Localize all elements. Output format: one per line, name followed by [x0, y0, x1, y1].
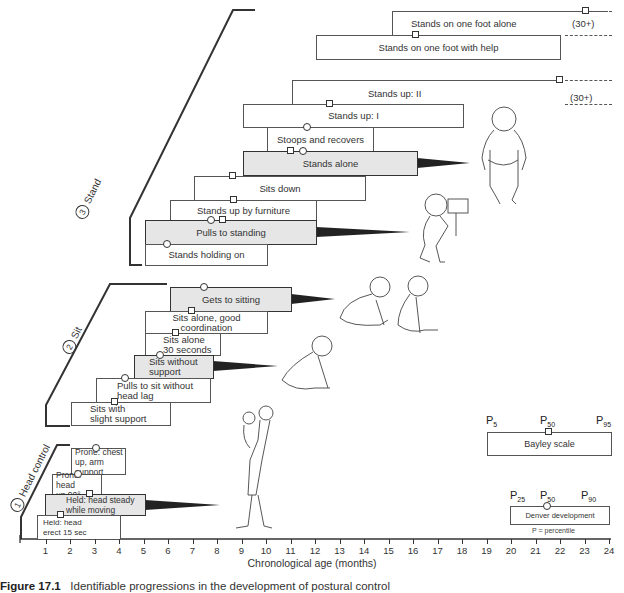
milestone-label: erect 15 sec — [43, 528, 87, 538]
denver-marker-circle — [200, 283, 208, 291]
milestone-label: Stoops and recovers — [277, 135, 364, 145]
axis-tick — [389, 539, 390, 544]
pulling-up-baby-illustration — [420, 194, 468, 262]
axis-tick — [46, 539, 47, 544]
milestone-label: support — [149, 367, 181, 377]
axis-tick — [438, 539, 439, 544]
dashed-extension — [565, 80, 612, 81]
legend-bayley-p5: P5 — [486, 414, 497, 428]
axis-tick-label: 15 — [379, 545, 399, 556]
legend-label: Denver development — [525, 511, 594, 521]
axis-tick — [364, 539, 365, 544]
bayley-marker-square — [230, 196, 237, 203]
figure-caption: Figure 17.1 Identifiable progressions in… — [0, 580, 390, 592]
milestone-sits-slight-support: Sits with slight support — [71, 402, 171, 426]
caption-text: Identifiable progressions in the develop… — [70, 580, 390, 592]
denver-marker-circle — [299, 147, 307, 155]
bayley-marker-square — [556, 76, 563, 83]
denver-marker-circle — [543, 502, 551, 510]
denver-marker-circle — [121, 374, 129, 382]
denver-marker-circle — [92, 444, 100, 452]
dashed-extension — [565, 104, 612, 105]
legend-denver-p90: P90 — [581, 489, 596, 503]
axis-tick-label: 9 — [232, 545, 252, 556]
axis-tick-label: 17 — [428, 545, 448, 556]
milestone-sits-alone-good-coordination: Sits alone, good coordination — [145, 311, 268, 334]
denver-marker-circle — [163, 240, 171, 248]
age-30-plus-note: (30+) — [570, 92, 592, 103]
dashed-extension — [592, 11, 612, 12]
milestone-label: Sits alone, good coordination — [146, 313, 267, 333]
axis-tick — [266, 539, 267, 544]
milestone-label: Pulls to sit without — [117, 381, 193, 391]
legend-label: Bayley scale — [524, 439, 575, 449]
milestone-stands-up-1: Stands up: I — [243, 104, 464, 128]
axis-tick — [413, 539, 414, 544]
legend-denver-p25: P25 — [510, 489, 525, 503]
axis-tick-label: 8 — [207, 545, 227, 556]
axis-tick — [585, 539, 586, 544]
sitting-babies-illustration — [282, 276, 438, 389]
axis-tick — [340, 539, 341, 544]
axis-tick — [144, 539, 145, 544]
axis-tick-label: 10 — [256, 545, 276, 556]
milestone-label: Gets to sitting — [202, 295, 260, 305]
legend-percentile-note: P = percentile — [532, 527, 575, 534]
milestone-sits-down: Sits down — [194, 176, 366, 201]
milestone-label: Held: head steady — [66, 495, 135, 505]
milestone-stands-alone: Stands alone — [243, 151, 418, 176]
denver-marker-circle — [207, 216, 215, 224]
axis-tick-label: 20 — [501, 545, 521, 556]
axis-tick — [70, 539, 71, 544]
milestone-label: Stands up by furniture — [197, 206, 290, 216]
milestone-label: Sits alone — [163, 335, 205, 345]
mother-holding-baby-illustration — [236, 406, 273, 528]
milestone-label: Stands alone — [303, 159, 358, 169]
standing-baby-illustration — [482, 107, 526, 204]
axis-tick-label: 7 — [183, 545, 203, 556]
legend-bayley-scale: Bayley scale — [487, 432, 612, 456]
axis-tick — [560, 539, 561, 544]
axis-tick-label: 21 — [526, 545, 546, 556]
milestone-label: Sits down — [259, 184, 300, 194]
axis-tick-label: 5 — [134, 545, 154, 556]
denver-marker-circle — [156, 351, 164, 359]
bayley-marker-square — [188, 307, 195, 314]
milestone-label: Held: head — [43, 518, 82, 528]
axis-tick-label: 11 — [281, 545, 301, 556]
milestone-label: Stands on one foot with help — [379, 43, 499, 53]
milestone-label: Stands up: II — [368, 88, 421, 99]
axis-tick-label: 6 — [158, 545, 178, 556]
axis-tick-label: 1 — [36, 545, 56, 556]
axis-tick — [462, 539, 463, 544]
axis-tick-label: 2 — [60, 545, 80, 556]
denver-marker-circle — [74, 470, 82, 478]
age-30-plus-note: (30+) — [572, 18, 594, 29]
bayley-marker-square — [545, 428, 552, 435]
bayley-marker-square — [111, 398, 118, 405]
bayley-marker-square — [412, 31, 419, 38]
milestone-held-head-erect: Held: head erect 15 sec — [37, 515, 121, 540]
x-axis-label: Chronological age (months) — [0, 557, 624, 569]
bayley-marker-square — [287, 147, 294, 154]
milestone-label: slight support — [90, 414, 147, 424]
axis-tick — [511, 539, 512, 544]
legend-bayley-p95: P95 — [596, 414, 611, 428]
legend-denver-development: Denver development — [510, 506, 610, 525]
axis-tick — [95, 539, 96, 544]
axis-tick — [315, 539, 316, 544]
axis-tick — [609, 539, 610, 544]
bayley-marker-square — [219, 216, 226, 223]
milestone-label: while moving — [66, 505, 115, 515]
milestone-stoops-recovers: Stoops and recovers — [267, 127, 374, 152]
bayley-marker-square — [172, 329, 179, 336]
milestone-label: head lag — [117, 391, 153, 401]
axis-tick — [168, 539, 169, 544]
axis-tick-label: 22 — [550, 545, 570, 556]
axis-tick-label: 24 — [599, 545, 619, 556]
milestone-label: Stands up: I — [328, 111, 379, 121]
caption-figure-number: Figure 17.1 — [0, 580, 61, 592]
milestone-pulls-to-standing: Pulls to standing — [145, 220, 317, 245]
denver-marker-circle — [303, 123, 311, 131]
milestone-label: 30 seconds — [163, 345, 212, 355]
